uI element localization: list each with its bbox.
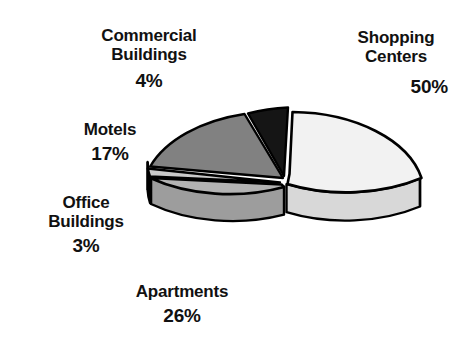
- slice-label-apartments-line1: Apartments: [108, 282, 256, 301]
- slice-label-office-buildings-line2: Buildings: [28, 212, 144, 231]
- slice-value-commercial-buildings: 4%: [84, 70, 214, 91]
- slice-label-commercial-buildings-line2: Buildings: [84, 45, 214, 64]
- pie-chart-svg: [138, 90, 434, 290]
- slice-value-shopping-centers: 50%: [340, 76, 452, 97]
- slice-value-apartments: 26%: [108, 305, 256, 326]
- slice-label-motels-line1: Motels: [62, 120, 158, 139]
- pie-chart-graphic: [138, 90, 434, 290]
- slice-label-office-buildings: Office Buildings 3%: [28, 193, 144, 256]
- slice-label-shopping-centers: Shopping Centers 50%: [340, 28, 452, 97]
- pie-chart-figure: Commercial Buildings 4% Shopping Centers…: [0, 0, 466, 349]
- pie-top-faces: [148, 108, 422, 195]
- slice-label-motels: Motels 17%: [62, 120, 158, 164]
- slice-label-commercial-buildings-line1: Commercial: [84, 26, 214, 45]
- slice-value-motels: 17%: [62, 143, 158, 164]
- slice-label-commercial-buildings: Commercial Buildings 4%: [84, 26, 214, 91]
- slice-label-apartments: Apartments 26%: [108, 282, 256, 326]
- slice-label-shopping-centers-line2: Centers: [340, 47, 452, 66]
- slice-value-office-buildings: 3%: [28, 235, 144, 256]
- slice-top-shopping-centers: [288, 112, 422, 192]
- slice-label-office-buildings-line1: Office: [28, 193, 144, 212]
- slice-label-shopping-centers-line1: Shopping: [340, 28, 452, 47]
